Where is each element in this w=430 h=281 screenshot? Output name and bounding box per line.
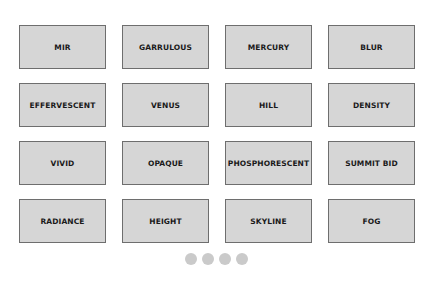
tile-label: VENUS [151, 101, 180, 110]
word-tile-grid: MIR GARRULOUS MERCURY BLUR EFFERVESCENT … [19, 25, 415, 243]
tile-label: OPAQUE [148, 159, 183, 168]
word-tile[interactable]: EFFERVESCENT [19, 83, 106, 127]
word-tile[interactable]: HEIGHT [122, 199, 209, 243]
word-tile[interactable]: DENSITY [328, 83, 415, 127]
word-tile[interactable]: VENUS [122, 83, 209, 127]
word-tile[interactable]: MERCURY [225, 25, 312, 69]
tile-label: HEIGHT [149, 217, 181, 226]
page-dot-2[interactable] [202, 253, 214, 265]
page-dot-4[interactable] [236, 253, 248, 265]
tile-label: FOG [363, 217, 381, 226]
word-tile[interactable]: RADIANCE [19, 199, 106, 243]
tile-label: SKYLINE [250, 217, 286, 226]
word-tile[interactable]: HILL [225, 83, 312, 127]
word-tile[interactable]: BLUR [328, 25, 415, 69]
pagination-dots [185, 253, 248, 265]
word-tile[interactable]: SKYLINE [225, 199, 312, 243]
word-tile[interactable]: SUMMIT BID [328, 141, 415, 185]
word-tile[interactable]: FOG [328, 199, 415, 243]
word-tile[interactable]: PHOSPHORESCENT [225, 141, 312, 185]
word-tile[interactable]: VIVID [19, 141, 106, 185]
tile-label: PHOSPHORESCENT [228, 159, 309, 168]
tile-label: HILL [259, 101, 278, 110]
tile-label: SUMMIT BID [345, 159, 398, 168]
word-tile[interactable]: OPAQUE [122, 141, 209, 185]
tile-label: BLUR [360, 43, 383, 52]
tile-label: EFFERVESCENT [30, 101, 96, 110]
tile-label: DENSITY [353, 101, 390, 110]
page-dot-1[interactable] [185, 253, 197, 265]
word-tile[interactable]: GARRULOUS [122, 25, 209, 69]
tile-label: VIVID [51, 159, 75, 168]
tile-label: RADIANCE [40, 217, 84, 226]
tile-label: MERCURY [248, 43, 289, 52]
word-tile[interactable]: MIR [19, 25, 106, 69]
page-dot-3[interactable] [219, 253, 231, 265]
tile-label: GARRULOUS [139, 43, 192, 52]
tile-label: MIR [54, 43, 70, 52]
